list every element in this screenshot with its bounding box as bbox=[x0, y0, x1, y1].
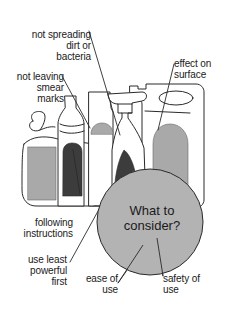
label-effect-on-surface: effect on surface bbox=[174, 58, 211, 80]
tall-bottle-icon bbox=[58, 96, 84, 206]
label-following-instructions: following instructions bbox=[10, 217, 73, 239]
center-title: What to consider? bbox=[112, 203, 192, 233]
label-ease-of-use: ease of use bbox=[76, 273, 118, 295]
label-use-least-powerful: use least powerful first bbox=[16, 254, 67, 287]
label-safety-of-use: safety of use bbox=[163, 273, 200, 295]
diagram-canvas: not spreading dirt or bacteria not leavi… bbox=[0, 0, 233, 321]
label-not-leaving-smear: not leaving smear marks bbox=[9, 71, 64, 104]
label-not-spreading: not spreading dirt or bacteria bbox=[24, 29, 91, 62]
